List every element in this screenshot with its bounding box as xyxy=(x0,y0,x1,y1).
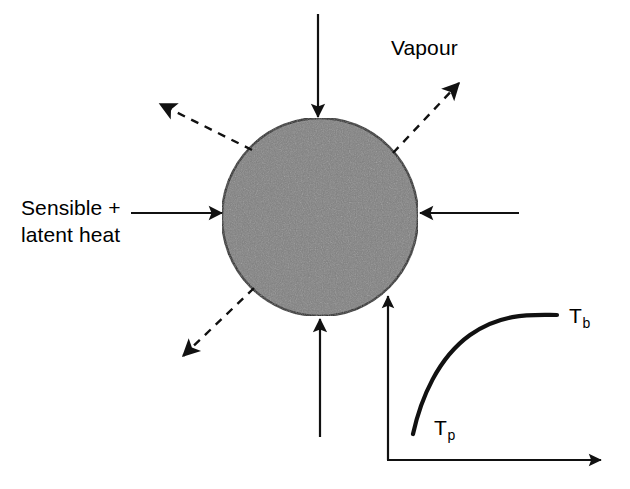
diagram-canvas: Sensible + latent heat Vapour Tb Tp xyxy=(0,0,630,489)
label-t-boiling-subscript: b xyxy=(582,315,590,331)
droplet xyxy=(222,118,418,316)
droplet-group xyxy=(222,118,418,316)
vapour-arrow-upper-right xyxy=(393,83,459,153)
label-t-boiling-main: T xyxy=(569,304,582,327)
label-vapour: Vapour xyxy=(391,34,458,61)
label-t-particle-main: T xyxy=(434,416,447,439)
vapour-arrow-upper-left xyxy=(160,104,252,150)
label-t-particle: Tp xyxy=(434,414,455,441)
label-sensible-latent-heat: Sensible + latent heat xyxy=(21,194,121,249)
vapour-arrow-lower-left xyxy=(183,288,254,356)
label-t-particle-subscript: p xyxy=(447,427,455,443)
label-t-boiling: Tb xyxy=(569,302,590,329)
